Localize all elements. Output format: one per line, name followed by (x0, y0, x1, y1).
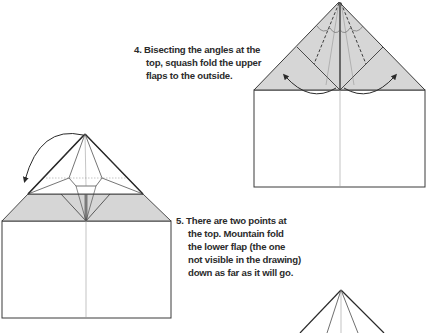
step-5-body-rect (2, 221, 171, 318)
step-5-line-3: the lower flap (the one (176, 240, 301, 253)
step-4-line-3: flaps to the outside. (134, 69, 261, 82)
step-5-line-4: not visible in the drawing) (176, 253, 301, 266)
step-4-body-rect (254, 90, 425, 187)
step-5-line-2: the top. Mountain fold (176, 227, 301, 240)
step-5-diagram (2, 133, 171, 318)
step-6-diagram-partial (300, 290, 384, 333)
step-5-line-1: 5. There are two points at (176, 214, 301, 227)
step-4-line-1: 4. Bisecting the angles at the (134, 43, 261, 56)
step-4-instruction: 4. Bisecting the angles at the top, squa… (134, 43, 261, 82)
step-4-line-2: top, squash fold the upper (134, 56, 261, 69)
step-5-instruction: 5. There are two points at the top. Moun… (176, 214, 301, 279)
step-4-diagram (254, 2, 425, 187)
step-5-line-5: down as far as it will go. (176, 266, 301, 279)
